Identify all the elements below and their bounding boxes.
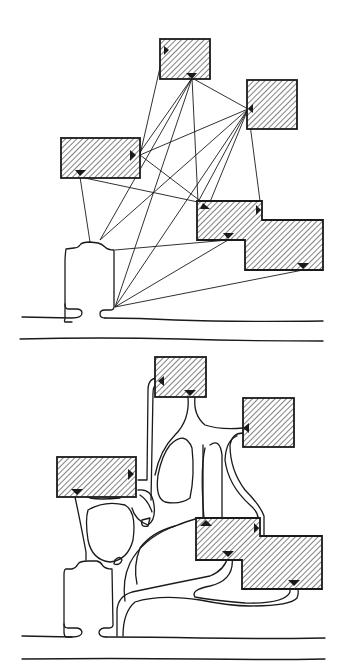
- l-shaped-building: [196, 518, 322, 589]
- entry-building: [22, 242, 114, 322]
- site-plan-diagram: [0, 0, 345, 668]
- right-building: [247, 80, 297, 129]
- left-building: [61, 138, 140, 178]
- bottom-panel: [22, 357, 325, 660]
- top-building: [155, 357, 206, 397]
- road: [22, 637, 325, 660]
- l-shaped-building: [197, 201, 323, 270]
- right-building: [243, 398, 294, 447]
- top-building: [160, 39, 210, 79]
- entry-building: [22, 561, 113, 637]
- top-panel: [20, 39, 323, 341]
- left-building: [57, 457, 136, 497]
